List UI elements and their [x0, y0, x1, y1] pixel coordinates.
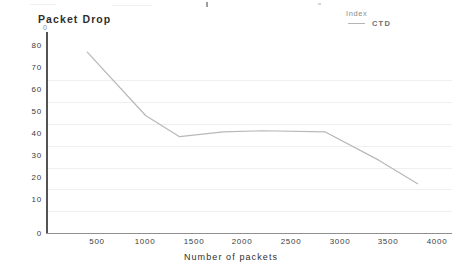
x-axis-title: Number of packets [0, 252, 462, 262]
y-axis-tick-labels: 80 70 60 50 40 30 20 10 0 [12, 0, 42, 271]
gridline-20 [48, 189, 452, 190]
y-tick-20: 20 [16, 173, 42, 182]
y-axis-title: Packet Drop [38, 13, 111, 25]
y-tick-30: 30 [16, 151, 42, 160]
series-line-ctd [87, 52, 417, 184]
x-tick-2500: 2500 [281, 237, 302, 246]
x-tick-500: 500 [89, 237, 104, 246]
y-tick-70: 70 [16, 63, 42, 72]
y-axis-line [46, 32, 48, 233]
series-plot [0, 0, 462, 271]
chart-legend: Index CTD [346, 9, 456, 33]
y-axis-origin-label: 0 [43, 24, 47, 31]
x-tick-2000: 2000 [232, 237, 253, 246]
y-tick-50: 50 [16, 107, 42, 116]
gridline-30 [48, 168, 452, 169]
y-tick-0: 0 [16, 229, 42, 238]
legend-title: Index [346, 9, 367, 18]
x-tick-4000: 4000 [427, 237, 448, 246]
x-axis-line [46, 233, 452, 234]
legend-item-ctd: CTD [372, 19, 391, 28]
gridline-40 [48, 146, 452, 147]
gridline-60 [48, 102, 452, 103]
x-tick-1000: 1000 [135, 237, 156, 246]
gridline-10 [48, 211, 452, 212]
x-tick-3000: 3000 [330, 237, 351, 246]
x-tick-1500: 1500 [184, 237, 205, 246]
y-tick-10: 10 [16, 195, 42, 204]
gridline-70 [48, 80, 452, 81]
y-tick-80: 80 [16, 41, 42, 50]
packet-drop-chart: Packet Drop 0 Index CTD 80 70 60 50 40 3… [0, 0, 462, 271]
y-tick-40: 40 [16, 129, 42, 138]
legend-line-swatch [348, 23, 365, 24]
gridline-50 [48, 124, 452, 125]
x-tick-3500: 3500 [378, 237, 399, 246]
y-tick-60: 60 [16, 85, 42, 94]
